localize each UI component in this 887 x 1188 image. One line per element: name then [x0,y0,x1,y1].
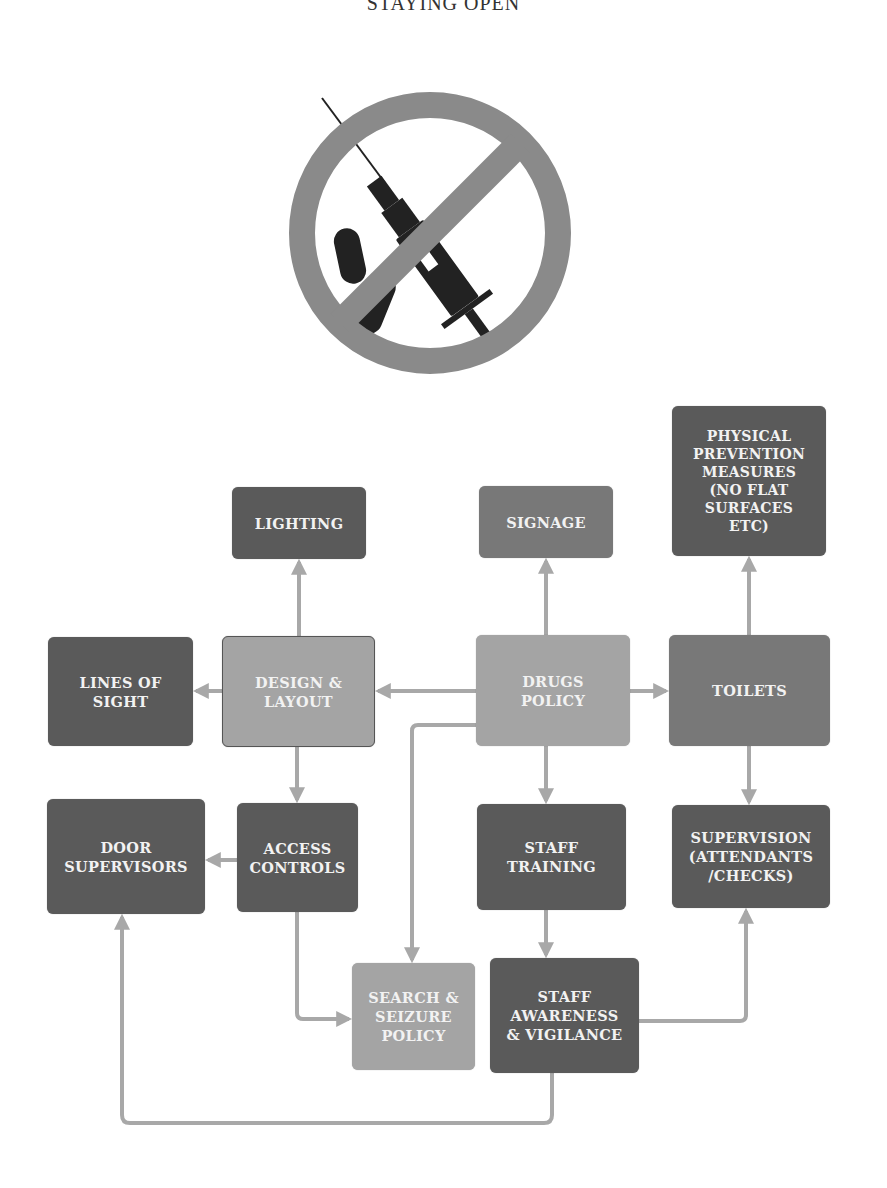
node-staff-training: STAFF TRAINING [477,804,626,910]
node-signage: SIGNAGE [479,486,613,558]
node-supervision: SUPERVISION (ATTENDANTS /CHECKS) [672,805,830,908]
node-door-supervisors: DOOR SUPERVISORS [47,799,205,914]
node-search-seizure: SEARCH & SEIZURE POLICY [352,963,475,1070]
node-lighting: LIGHTING [232,487,366,559]
node-design-layout: DESIGN & LAYOUT [222,636,375,747]
node-staff-awareness: STAFF AWARENESS & VIGILANCE [490,958,639,1073]
node-lines-of-sight: LINES OF SIGHT [48,637,193,746]
node-drugs-policy: DRUGS POLICY [476,635,630,746]
node-physical-prevention: PHYSICAL PREVENTION MEASURES (NO FLAT SU… [672,406,826,556]
node-toilets: TOILETS [669,635,830,746]
node-access-controls: ACCESS CONTROLS [237,803,358,912]
